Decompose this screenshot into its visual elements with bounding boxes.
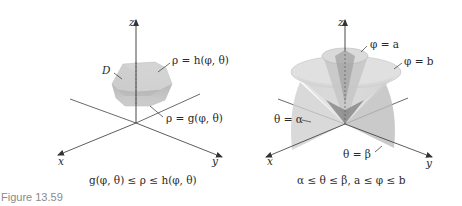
- leader-theta-beta: [375, 146, 382, 152]
- x-axis-label: x: [58, 155, 64, 167]
- z-axis-label: z: [128, 16, 135, 28]
- plane-beta-label: θ = β: [343, 148, 371, 160]
- plane-alpha-label: θ = α: [274, 113, 303, 125]
- x-axis-label: x: [267, 155, 273, 167]
- outer-cone-label: φ = b: [404, 55, 434, 67]
- inner-surface-label: ρ = g(φ, θ): [166, 112, 223, 124]
- x-axis: [58, 123, 136, 155]
- inner-cone-label: φ = a: [370, 38, 399, 50]
- right-diagram: z x y φ = a φ = b θ = α θ = β α ≤ θ ≤ β,…: [266, 16, 434, 186]
- y-axis-label: y: [425, 157, 433, 169]
- region-d-label: D: [101, 64, 111, 76]
- y-axis: [136, 123, 222, 157]
- leader-phi-a: [361, 46, 367, 52]
- z-axis-label: z: [337, 16, 344, 28]
- y-axis-label: y: [211, 155, 219, 167]
- left-inequality: g(φ, θ) ≤ ρ ≤ h(φ, θ): [89, 174, 197, 186]
- figure-caption: Figure 13.59: [1, 191, 63, 203]
- outer-surface-label: ρ = h(φ, θ): [172, 54, 229, 66]
- right-inequality: α ≤ θ ≤ β, a ≤ φ ≤ b: [297, 174, 406, 186]
- left-diagram: z x y D ρ = h(φ, θ) ρ = g(φ, θ) g(φ, θ) …: [58, 16, 229, 186]
